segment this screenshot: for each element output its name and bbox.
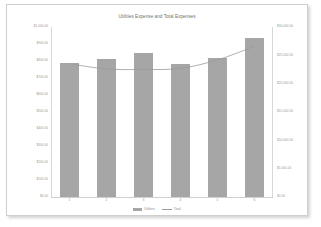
left-axis-tick-label: $0.00 — [40, 195, 48, 198]
left-axis-tick-label: $800.00 — [36, 59, 48, 62]
screenshot-root: Utilities Expense and Total Expenses $1,… — [0, 0, 321, 227]
line-series-total[interactable] — [51, 27, 273, 197]
left-axis-tick-label: $900.00 — [36, 42, 48, 45]
legend-item-utilities[interactable]: Utilities — [133, 208, 155, 211]
legend-line-marker-icon — [162, 209, 172, 210]
legend-label-utilities: Utilities — [144, 208, 155, 211]
legend-bar-swatch-icon — [133, 208, 142, 211]
legend-item-total[interactable]: Total — [162, 208, 181, 211]
right-axis-tick-label: $30,000.00 — [277, 25, 293, 28]
right-axis-tick-label: $5,000.00 — [277, 167, 291, 170]
chart-title: Utilities Expense and Total Expenses — [7, 14, 307, 19]
x-axis-line — [51, 197, 273, 198]
line-path — [70, 46, 255, 69]
left-axis-tick-label: $100.00 — [36, 178, 48, 181]
legend-label-total: Total — [174, 208, 181, 211]
right-axis-tick-label: $15,000.00 — [277, 110, 293, 113]
left-axis-tick-label: $300.00 — [36, 144, 48, 147]
right-axis-tick-label: $0.00 — [277, 195, 285, 198]
x-axis-label: 3 — [134, 199, 154, 202]
right-axis-tick-label: $20,000.00 — [277, 82, 293, 85]
x-axis-label: 4 — [171, 199, 191, 202]
right-axis-tick-label: $25,000.00 — [277, 54, 293, 57]
left-axis-tick-label: $200.00 — [36, 161, 48, 164]
chart-container[interactable]: Utilities Expense and Total Expenses $1,… — [7, 5, 307, 215]
x-axis-label: 2 — [97, 199, 117, 202]
right-axis-tick-label: $10,000.00 — [277, 139, 293, 142]
chart-page-frame: Utilities Expense and Total Expenses $1,… — [6, 4, 308, 216]
left-axis-tick-label: $400.00 — [36, 127, 48, 130]
left-axis-tick-label: $500.00 — [36, 110, 48, 113]
left-axis-tick-label: $1,000.00 — [34, 25, 48, 28]
x-axis-label: 5 — [208, 199, 228, 202]
chart-legend[interactable]: Utilities Total — [7, 208, 307, 211]
left-axis-tick-label: $600.00 — [36, 93, 48, 96]
left-axis-tick-label: $700.00 — [36, 76, 48, 79]
x-axis-label: 6 — [245, 199, 265, 202]
x-axis-label: 1 — [60, 199, 80, 202]
